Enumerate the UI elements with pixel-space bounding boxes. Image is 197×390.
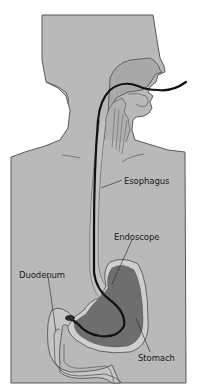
- label-endoscope: Endoscope: [114, 232, 159, 242]
- endoscope-tip: [65, 315, 75, 321]
- label-esophagus: Esophagus: [124, 176, 169, 186]
- diagram-canvas: [0, 0, 197, 390]
- endoscopy-diagram: Esophagus Endoscope Duodenum Stomach: [0, 0, 197, 390]
- label-stomach: Stomach: [138, 353, 175, 363]
- label-duodenum: Duodenum: [19, 270, 65, 280]
